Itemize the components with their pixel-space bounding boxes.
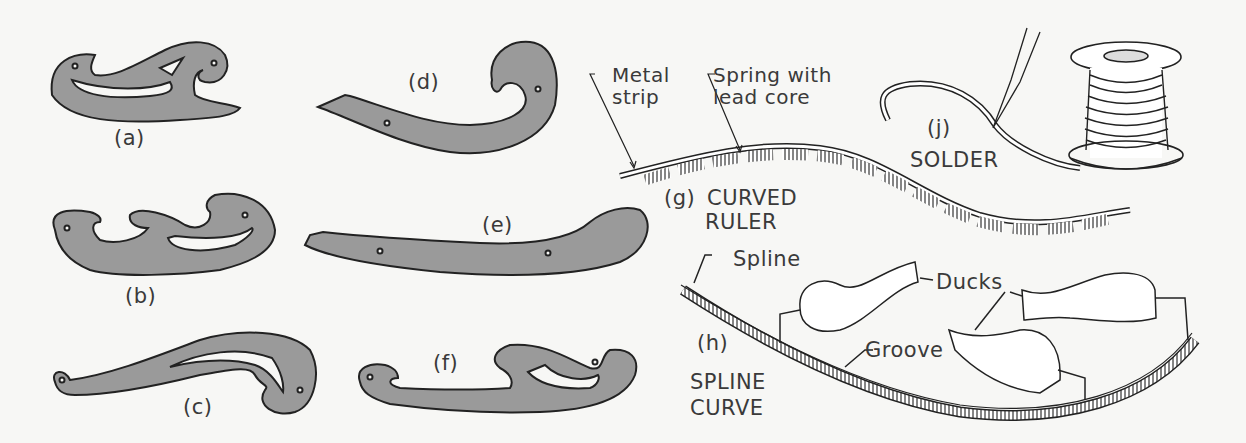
label-curve-d: (d) (408, 72, 439, 93)
label-solder: SOLDER (910, 150, 999, 171)
french-curve-b (53, 194, 275, 275)
label-curve-c: (c) (183, 397, 212, 418)
french-curve-f (359, 345, 636, 413)
label-spline-curve-line2: CURVE (690, 398, 764, 419)
french-curve-a (52, 42, 240, 121)
french-curve-e (305, 208, 648, 275)
label-curve-a: (a) (114, 128, 145, 149)
callout-metal-strip: Metal strip (612, 64, 670, 108)
label-id-g: (g) (664, 188, 695, 209)
label-id-j: (j) (927, 118, 951, 139)
label-spline-curve-line1: SPLINE (690, 372, 766, 393)
label-curve-f: (f) (433, 353, 458, 374)
label-curve-b: (b) (125, 286, 156, 307)
callout-groove: Groove (865, 340, 944, 361)
label-curved-ruler-line1: CURVED (707, 188, 797, 209)
label-curved-ruler-line2: RULER (705, 212, 777, 233)
callout-spring-lead-core: Spring with lead core (713, 64, 832, 108)
label-curve-e: (e) (482, 215, 513, 236)
callout-ducks: Ducks (936, 272, 1003, 293)
callout-spline: Spline (733, 249, 801, 270)
label-id-h: (h) (697, 333, 728, 354)
french-curve-d (318, 42, 557, 153)
